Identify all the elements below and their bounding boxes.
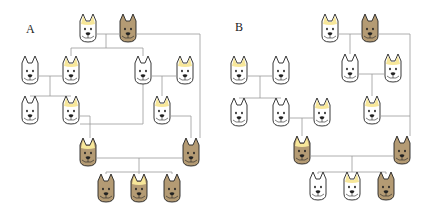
- dog-face-b13: [310, 172, 326, 200]
- dog-face-a10: [80, 138, 96, 166]
- eye-icon: [346, 68, 348, 71]
- eye-icon: [164, 110, 166, 113]
- dog-face-a11: [183, 138, 199, 166]
- dog-face-a6: [177, 56, 193, 84]
- eye-icon: [352, 68, 354, 71]
- eye-icon: [368, 110, 370, 113]
- eye-icon: [320, 186, 322, 189]
- eye-icon: [298, 150, 300, 153]
- eye-icon: [374, 110, 376, 113]
- dog-face-b14: [344, 172, 360, 200]
- eye-icon: [277, 112, 279, 115]
- dog-face-b1: [322, 14, 338, 42]
- pedigree-line: [171, 116, 191, 138]
- eye-icon: [139, 70, 141, 73]
- eye-icon: [398, 150, 400, 153]
- eye-icon: [235, 112, 237, 115]
- dog-face-a9: [154, 96, 170, 124]
- eye-icon: [332, 28, 334, 31]
- eye-icon: [241, 70, 243, 73]
- eye-icon: [283, 112, 285, 115]
- eye-icon: [108, 188, 110, 191]
- eye-icon: [102, 188, 104, 191]
- eye-icon: [84, 28, 86, 31]
- dog-face-b15: [378, 172, 394, 200]
- eye-icon: [181, 70, 183, 73]
- eye-icon: [187, 70, 189, 73]
- dog-face-a7: [22, 96, 38, 124]
- dog-face-a14: [164, 174, 180, 202]
- eye-icon: [26, 70, 28, 73]
- pedigree-individuals: [22, 14, 410, 202]
- crest-icon: [232, 58, 246, 67]
- eye-icon: [304, 150, 306, 153]
- crest-icon: [386, 56, 400, 65]
- pedigree-diagram: [0, 0, 430, 215]
- dog-face-b11: [294, 136, 310, 164]
- eye-icon: [168, 188, 170, 191]
- eye-icon: [187, 152, 189, 155]
- eye-icon: [32, 110, 34, 113]
- dog-face-b10: [364, 96, 380, 124]
- eye-icon: [235, 70, 237, 73]
- pedigree-line: [106, 48, 143, 56]
- crest-icon: [323, 16, 337, 25]
- eye-icon: [145, 70, 147, 73]
- dog-face-b7: [231, 98, 247, 126]
- eye-icon: [395, 68, 397, 71]
- eye-icon: [241, 112, 243, 115]
- eye-icon: [366, 28, 368, 31]
- dog-face-b12: [394, 136, 410, 164]
- eye-icon: [283, 70, 285, 73]
- eye-icon: [193, 152, 195, 155]
- crest-icon: [155, 98, 169, 107]
- eye-icon: [90, 28, 92, 31]
- eye-icon: [324, 112, 326, 115]
- dog-face-b6: [385, 54, 401, 82]
- eye-icon: [130, 28, 132, 31]
- eye-icon: [158, 110, 160, 113]
- eye-icon: [389, 68, 391, 71]
- crest-icon: [295, 138, 309, 147]
- dog-face-a4: [63, 56, 79, 84]
- eye-icon: [404, 150, 406, 153]
- crest-icon: [64, 58, 78, 67]
- crest-icon: [64, 98, 78, 107]
- eye-icon: [318, 112, 320, 115]
- eye-icon: [67, 70, 69, 73]
- dog-face-a8: [63, 96, 79, 124]
- eye-icon: [388, 186, 390, 189]
- eye-icon: [124, 28, 126, 31]
- dog-face-b9: [314, 98, 330, 126]
- eye-icon: [314, 186, 316, 189]
- pedigree-line: [80, 84, 143, 124]
- dog-face-a2: [120, 14, 136, 42]
- eye-icon: [326, 28, 328, 31]
- eye-icon: [141, 188, 143, 191]
- dog-face-b2: [362, 14, 378, 42]
- eye-icon: [32, 70, 34, 73]
- eye-icon: [73, 110, 75, 113]
- dog-face-a3: [22, 56, 38, 84]
- pedigree-line: [379, 34, 410, 136]
- crest-icon: [81, 16, 95, 25]
- crest-icon: [178, 58, 192, 67]
- eye-icon: [26, 110, 28, 113]
- dog-face-b5: [342, 54, 358, 82]
- eye-icon: [354, 186, 356, 189]
- eye-icon: [73, 70, 75, 73]
- eye-icon: [382, 186, 384, 189]
- dog-face-a1: [80, 14, 96, 42]
- crest-icon: [365, 98, 379, 107]
- crest-icon: [345, 174, 359, 183]
- eye-icon: [348, 186, 350, 189]
- eye-icon: [372, 28, 374, 31]
- eye-icon: [67, 110, 69, 113]
- eye-icon: [135, 188, 137, 191]
- dog-face-a5: [135, 56, 151, 84]
- dog-face-b3: [231, 56, 247, 84]
- crest-icon: [81, 140, 95, 149]
- eye-icon: [277, 70, 279, 73]
- eye-icon: [84, 152, 86, 155]
- dog-face-b8: [273, 98, 289, 126]
